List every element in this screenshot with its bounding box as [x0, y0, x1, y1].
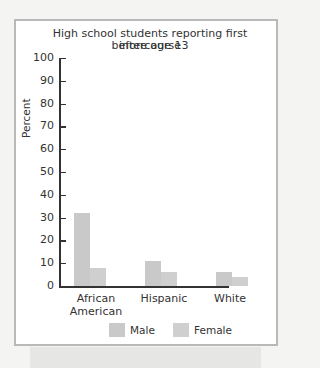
y-tick	[59, 58, 66, 59]
y-tick	[59, 104, 66, 105]
y-tick-label: 80	[30, 98, 54, 110]
y-tick	[59, 126, 66, 127]
legend-label-male: Male	[130, 324, 155, 336]
bar-female-hispanic	[161, 272, 177, 286]
chart-title-line-2: before age 13	[20, 40, 280, 52]
y-tick-label: 0	[30, 280, 54, 292]
y-tick	[59, 172, 66, 173]
caption-strip	[30, 347, 261, 368]
category-label-white: White	[205, 292, 255, 305]
y-tick	[59, 195, 66, 196]
category-label-hispanic: Hispanic	[134, 292, 194, 305]
y-tick-label: 100	[30, 52, 54, 64]
y-tick	[59, 81, 66, 82]
y-tick	[59, 240, 66, 241]
legend-swatch-male	[109, 323, 125, 337]
y-tick	[59, 286, 66, 287]
bar-male-african-american	[74, 213, 90, 286]
y-tick-label: 40	[30, 189, 54, 201]
bar-female-white	[232, 277, 248, 286]
y-tick	[59, 149, 66, 150]
bar-female-african-american	[90, 268, 106, 286]
x-axis	[59, 286, 229, 288]
y-tick-label: 30	[30, 212, 54, 224]
y-tick-label: 70	[30, 120, 54, 132]
category-label-line: American	[66, 305, 126, 318]
bar-male-hispanic	[145, 261, 161, 286]
y-tick	[59, 218, 66, 219]
legend-label-female: Female	[194, 324, 232, 336]
y-tick-label: 50	[30, 166, 54, 178]
y-tick-label: 10	[30, 257, 54, 269]
y-tick-label: 90	[30, 75, 54, 87]
category-label-line: African	[66, 292, 126, 305]
bar-male-white	[216, 272, 232, 286]
legend-swatch-female	[173, 323, 189, 337]
category-label-african-american: African American	[66, 292, 126, 318]
y-tick-label: 60	[30, 143, 54, 155]
y-tick	[59, 263, 66, 264]
y-tick-label: 20	[30, 234, 54, 246]
